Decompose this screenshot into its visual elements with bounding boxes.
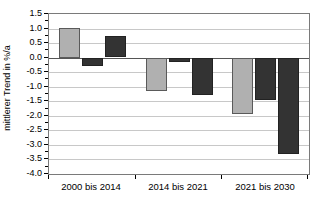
y-tick-label: -1.5 <box>26 96 42 105</box>
y-tick-mark <box>44 71 48 72</box>
y-tick-label: -2.5 <box>26 125 42 134</box>
y-tick-label: 1.5 <box>29 9 42 18</box>
y-tick-mark <box>44 42 48 43</box>
y-tick-mark-minor <box>45 151 48 152</box>
y-tick-mark <box>44 57 48 58</box>
y-tick-mark <box>44 129 48 130</box>
y-tick-mark <box>44 100 48 101</box>
y-tick-mark-minor <box>45 122 48 123</box>
bar-chart: mittlerer Trend in %/a 1.51.00.50.0-0.5-… <box>0 0 317 210</box>
y-tick-mark <box>44 158 48 159</box>
y-tick-mark-minor <box>45 49 48 50</box>
y-tick-mark <box>44 28 48 29</box>
y-tick-mark <box>44 13 48 14</box>
y-tick-mark-minor <box>45 35 48 36</box>
gridline <box>49 43 309 44</box>
x-tick-mark <box>135 175 136 179</box>
x-tick-mark <box>48 175 49 179</box>
y-tick-mark-minor <box>45 108 48 109</box>
y-tick-mark-minor <box>45 93 48 94</box>
x-tick-label: 2000 bis 2014 <box>61 181 121 192</box>
gridline <box>49 145 309 146</box>
gridline <box>49 130 309 131</box>
x-tick-label: 2014 bis 2021 <box>148 181 208 192</box>
bar <box>169 58 190 62</box>
bar <box>82 58 103 66</box>
y-tick-mark <box>44 144 48 145</box>
y-tick-mark <box>44 86 48 87</box>
y-tick-mark <box>44 173 48 174</box>
y-tick-label: 0.5 <box>29 38 42 47</box>
y-tick-label: -4.0 <box>26 169 42 178</box>
plot-area <box>48 13 310 175</box>
bar <box>105 36 126 57</box>
y-tick-label: -2.0 <box>26 110 42 119</box>
bar <box>192 58 213 95</box>
y-tick-label: -0.5 <box>26 67 42 76</box>
x-tick-mark <box>307 175 308 179</box>
bar <box>232 58 253 114</box>
y-tick-label: 0.0 <box>29 52 42 61</box>
bar <box>255 58 276 100</box>
gridline <box>49 101 309 102</box>
y-tick-mark <box>44 115 48 116</box>
bar <box>146 58 167 91</box>
x-tick-label: 2021 bis 2030 <box>235 181 295 192</box>
y-tick-label: -1.0 <box>26 81 42 90</box>
x-axis-tick-labels: 2000 bis 20142014 bis 20212021 bis 2030 <box>48 181 310 201</box>
y-tick-mark-minor <box>45 137 48 138</box>
y-tick-mark-minor <box>45 78 48 79</box>
gridline <box>49 116 309 117</box>
y-tick-mark-minor <box>45 64 48 65</box>
gridline <box>49 29 309 30</box>
bar <box>278 58 299 154</box>
bar <box>59 28 80 58</box>
y-tick-label: -3.0 <box>26 139 42 148</box>
y-tick-mark-minor <box>45 20 48 21</box>
gridline <box>49 159 309 160</box>
y-axis-tick-labels: 1.51.00.50.0-0.5-1.0-1.5-2.0-2.5-3.0-3.5… <box>14 0 44 175</box>
y-axis-title-text: mittlerer Trend in %/a <box>2 45 12 131</box>
y-tick-label: 1.0 <box>29 23 42 32</box>
y-tick-label: -3.5 <box>26 154 42 163</box>
x-tick-mark <box>221 175 222 179</box>
x-axis-ticks <box>48 175 310 180</box>
y-tick-mark-minor <box>45 166 48 167</box>
y-axis-title: mittlerer Trend in %/a <box>0 0 14 175</box>
